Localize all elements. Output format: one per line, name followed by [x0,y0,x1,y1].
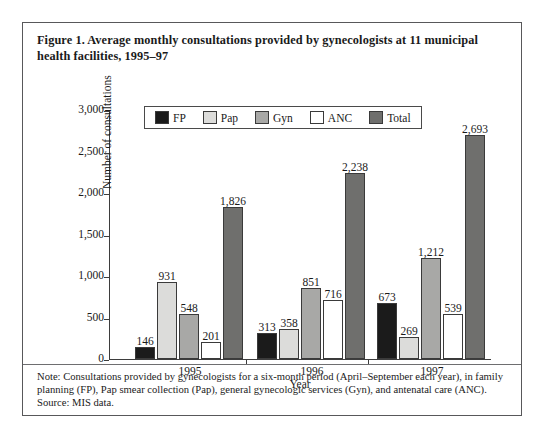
bar-value-label: 313 [258,321,275,333]
bar-group-1995: 1469315482011,8261995 [135,110,245,359]
bar-1996-total: 2,238 [345,173,365,359]
bar-value-label: 1,212 [418,246,444,258]
bar-group-1996: 3133588517162,2381996 [257,110,367,359]
bar-value-label: 716 [324,288,341,300]
y-tick-mark [104,319,109,320]
bar-1996-gyn: 851 [301,288,321,359]
y-tick-label: 500 [87,311,104,323]
note-divider [23,364,521,365]
bar-value-label: 548 [180,302,197,314]
bar-value-label: 146 [136,335,153,347]
bar-value-label: 931 [158,270,175,282]
note-block: Note: Consultations provided by gynecolo… [37,370,507,410]
y-tick-mark [104,194,109,195]
bar-1995-total: 1,826 [223,207,243,359]
bar-1997-fp: 673 [377,303,397,359]
bar-value-label: 358 [280,317,297,329]
x-axis-line [109,359,491,360]
bar-value-label: 2,693 [462,123,488,135]
y-tick-mark [104,236,109,237]
y-tick-mark [104,111,109,112]
source-text: Source: MIS data. [37,396,507,409]
bar-value-label: 673 [378,291,395,303]
y-tick-mark [104,360,109,361]
bar-1995-anc: 201 [201,342,221,359]
bar-group-1997: 6732691,2125392,6931997 [377,110,487,359]
y-tick-label: 0 [98,352,104,364]
bar-1995-pap: 931 [157,282,177,359]
y-tick-label: 2,000 [78,186,104,198]
bar-value-label: 1,826 [220,195,246,207]
figure-caption: Figure 1. Average monthly consultations … [37,33,505,64]
y-tick-label: 1,000 [78,269,104,281]
bar-1996-pap: 358 [279,329,299,359]
chart-area: FPPapGynANCTotal Number of consultations… [23,73,521,365]
plot-area: Number of consultations 05001,0001,5002,… [109,111,491,360]
bar-value-label: 201 [202,330,219,342]
bar-value-label: 539 [444,302,461,314]
figure-frame: Figure 1. Average monthly consultations … [22,22,522,416]
y-tick-label: 1,500 [78,228,104,240]
bar-value-label: 269 [400,325,417,337]
bar-value-label: 851 [302,276,319,288]
bar-1996-anc: 716 [323,300,343,359]
y-tick-label: 3,000 [78,103,104,115]
bar-1996-fp: 313 [257,333,277,359]
y-tick-label: 2,500 [78,145,104,157]
bar-1995-fp: 146 [135,347,155,359]
bar-1997-gyn: 1,212 [421,258,441,359]
bar-value-label: 2,238 [342,161,368,173]
note-text: Note: Consultations provided by gynecolo… [37,370,507,396]
bar-1997-pap: 269 [399,337,419,359]
bar-1997-total: 2,693 [465,135,485,359]
y-axis-title: Number of consultations [101,75,113,189]
y-tick-mark [104,277,109,278]
bar-1995-gyn: 548 [179,314,199,359]
bar-1997-anc: 539 [443,314,463,359]
y-tick-mark [104,153,109,154]
